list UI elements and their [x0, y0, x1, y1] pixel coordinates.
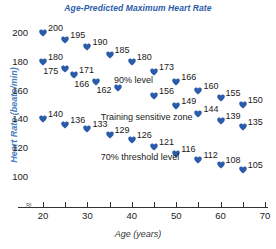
x-axis-tick: [198, 202, 199, 207]
x-tick-label: 60: [210, 211, 232, 221]
data-point-label: 180: [137, 53, 152, 62]
data-point-label: 140: [48, 110, 63, 119]
data-point-marker: [150, 68, 157, 75]
data-point-marker: [150, 143, 157, 150]
data-point-label: 166: [74, 80, 89, 89]
x-axis-tick: [176, 202, 177, 207]
data-point-marker: [128, 136, 135, 143]
y-tick-label: 160: [2, 86, 28, 96]
data-point-label: 185: [115, 46, 130, 55]
data-point-marker: [39, 58, 46, 65]
x-axis-title: Age (years): [0, 229, 276, 239]
data-point-marker: [194, 110, 201, 117]
data-point-label: 166: [181, 73, 196, 82]
data-point-label: 139: [226, 112, 241, 121]
x-tick-label: 40: [121, 211, 143, 221]
x-axis-tick: [221, 202, 222, 207]
data-point-label: 162: [96, 86, 111, 95]
data-point-marker: [39, 29, 46, 36]
data-point-marker: [92, 78, 99, 85]
data-point-label: 136: [70, 116, 85, 125]
data-point-label: 149: [181, 97, 196, 106]
data-point-marker: [128, 58, 135, 65]
x-tick-label: 20: [32, 211, 54, 221]
data-point-label: 121: [159, 138, 174, 147]
data-point-label: 108: [226, 156, 241, 165]
y-tick-label: 200: [2, 28, 28, 38]
data-point-label: 144: [203, 105, 218, 114]
x-axis-tick: [65, 202, 66, 207]
data-point-marker: [61, 65, 68, 72]
data-point-label: 126: [137, 131, 152, 140]
data-point-marker: [150, 92, 157, 99]
data-point-label: 155: [226, 89, 241, 98]
data-point-marker: [83, 125, 90, 132]
chart-container: Age-Predicted Maximum Heart Rate Heart R…: [0, 0, 276, 249]
y-tick-label: 180: [2, 57, 28, 67]
x-tick-label: 50: [165, 211, 187, 221]
data-point-marker: [194, 87, 201, 94]
data-point-marker: [217, 161, 224, 168]
x-axis-tick: [132, 202, 133, 207]
data-point-label: 135: [248, 118, 263, 127]
zone-annotation: 70% threshold level: [101, 153, 180, 162]
data-point-marker: [114, 84, 121, 91]
zone-annotation: 90% level: [114, 76, 153, 85]
data-point-label: 180: [48, 53, 63, 62]
data-point-marker: [217, 94, 224, 101]
y-tick-label: 100: [2, 172, 28, 182]
data-point-marker: [172, 102, 179, 109]
data-point-marker: [106, 51, 113, 58]
x-axis-tick: [265, 202, 266, 207]
data-point-label: 116: [181, 145, 195, 154]
data-point-label: 105: [248, 161, 263, 170]
data-point-label: 112: [203, 151, 217, 160]
data-point-label: 175: [43, 67, 58, 76]
x-axis-tick: [110, 202, 111, 207]
data-point-marker: [194, 156, 201, 163]
data-point-marker: [61, 121, 68, 128]
data-point-marker: [106, 131, 113, 138]
data-point-marker: [239, 166, 246, 173]
data-point-marker: [172, 78, 179, 85]
axis-break-icon: ≈: [26, 200, 31, 210]
data-point-marker: [61, 36, 68, 43]
data-point-label: 156: [159, 87, 174, 96]
chart-title: Age-Predicted Maximum Heart Rate: [0, 3, 276, 13]
data-point-marker: [217, 117, 224, 124]
data-point-label: 171: [79, 66, 94, 75]
y-tick-label: 120: [2, 143, 28, 153]
data-point-label: 129: [115, 126, 130, 135]
y-tick-label: 140: [2, 114, 28, 124]
x-tick-label: 70: [254, 211, 276, 221]
x-axis-tick: [87, 202, 88, 207]
x-axis-tick: [243, 202, 244, 207]
data-point-marker: [70, 71, 77, 78]
data-point-marker: [39, 115, 46, 122]
data-point-label: 195: [70, 31, 85, 40]
data-point-marker: [239, 101, 246, 108]
x-axis-tick: [43, 202, 44, 207]
data-point-marker: [239, 123, 246, 130]
x-axis-tick: [154, 202, 155, 207]
x-axis-line: [18, 207, 268, 208]
data-point-label: 173: [159, 63, 174, 72]
zone-annotation: Training sensitive zone: [101, 113, 193, 122]
x-tick-label: 30: [76, 211, 98, 221]
data-point-label: 150: [248, 96, 263, 105]
data-point-label: 190: [92, 38, 107, 47]
data-point-label: 200: [48, 24, 63, 33]
data-point-label: 160: [203, 82, 218, 91]
data-point-marker: [83, 43, 90, 50]
